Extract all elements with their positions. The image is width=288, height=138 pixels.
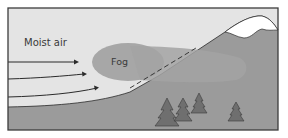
moist-air-label: Moist air bbox=[24, 37, 68, 48]
fog-label: Fog bbox=[111, 56, 128, 67]
upslope-fog-diagram: Moist air Fog bbox=[0, 0, 288, 138]
